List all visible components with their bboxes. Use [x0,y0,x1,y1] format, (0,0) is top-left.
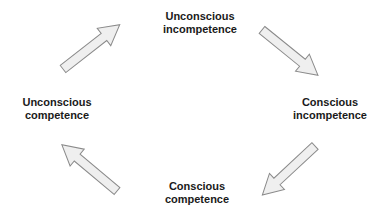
stage-label-line1: Conscious [152,180,242,193]
stage-label-line2: competence [12,109,102,122]
stage-conscious-competence: Conscious competence [152,180,242,206]
arrow-up-right-icon [56,16,126,78]
arrow-up-left-icon [55,136,124,199]
stage-conscious-incompetence: Conscious incompetence [285,96,374,122]
stage-label-line2: incompetence [150,23,250,36]
arrow-down-right-icon [255,21,325,83]
stage-label-line1: Unconscious [150,10,250,23]
competence-cycle-diagram: Unconscious incompetence Conscious incom… [0,0,374,214]
stage-label-line1: Unconscious [12,96,102,109]
stage-unconscious-incompetence: Unconscious incompetence [150,10,250,36]
stage-unconscious-competence: Unconscious competence [12,96,102,122]
arrow-down-left-icon [255,138,323,203]
stage-label-line2: competence [152,193,242,206]
stage-label-line2: incompetence [285,109,374,122]
stage-label-line1: Conscious [285,96,374,109]
